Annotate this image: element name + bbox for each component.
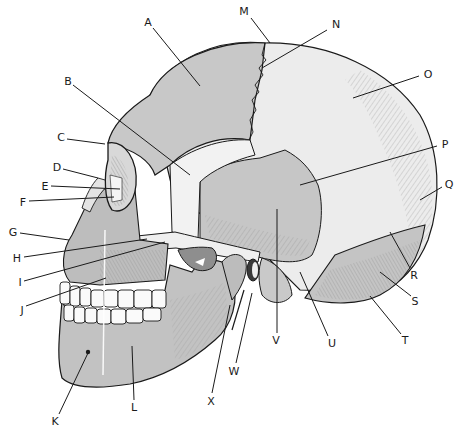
label-o: O — [424, 69, 433, 80]
meatus-rim — [252, 262, 258, 278]
label-m: M — [239, 6, 249, 17]
label-w: W — [229, 366, 240, 377]
label-g: G — [9, 227, 18, 238]
label-v: V — [272, 335, 280, 346]
label-f: F — [20, 197, 26, 208]
label-l: L — [131, 402, 137, 413]
label-i: I — [18, 277, 21, 288]
label-d: D — [53, 162, 61, 173]
label-u: U — [328, 338, 336, 349]
leader-line-d — [63, 169, 98, 178]
leader-line-t — [370, 296, 401, 334]
label-c: C — [57, 132, 65, 143]
mandibular-notch — [178, 247, 217, 271]
maxilla-shading — [100, 250, 165, 285]
label-s: S — [412, 296, 419, 307]
label-a: A — [144, 17, 152, 28]
leader-line-w — [236, 293, 252, 363]
label-b: B — [64, 76, 72, 87]
label-k: K — [51, 416, 58, 427]
label-p: P — [442, 139, 449, 150]
leader-line-g — [20, 233, 69, 240]
label-e: E — [42, 181, 49, 192]
label-t: T — [402, 335, 409, 346]
leader-line-m — [251, 18, 270, 43]
label-n: N — [332, 19, 340, 30]
leader-line-c — [67, 139, 105, 144]
label-r: R — [410, 270, 418, 281]
label-x: X — [207, 396, 215, 407]
label-h: H — [13, 253, 21, 264]
label-j: J — [20, 305, 23, 316]
label-q: Q — [445, 179, 454, 190]
